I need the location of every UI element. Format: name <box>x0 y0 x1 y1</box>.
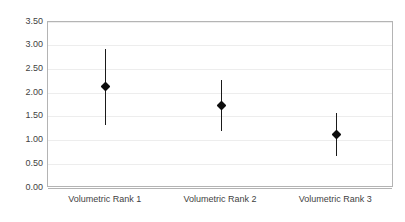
x-axis-tick-label: Volumetric Rank 1 <box>68 194 141 205</box>
data-point-marker <box>216 101 226 111</box>
y-axis-tick-label: 0.00 <box>3 183 43 192</box>
y-axis-tick-label: 3.50 <box>3 17 43 26</box>
x-axis: Volumetric Rank 1Volumetric Rank 2Volume… <box>47 194 393 214</box>
data-point-marker <box>101 82 111 92</box>
data-point-marker <box>331 129 341 139</box>
gridline <box>48 164 392 165</box>
y-axis-tick-label: 2.50 <box>3 64 43 73</box>
x-axis-tick-label: Volumetric Rank 2 <box>183 194 256 205</box>
y-axis-tick-label: 3.00 <box>3 40 43 49</box>
y-axis-tick-label: 1.50 <box>3 111 43 120</box>
gridline <box>48 188 392 189</box>
gridline <box>48 140 392 141</box>
y-axis-tick-label: 2.00 <box>3 88 43 97</box>
y-axis: 3.503.002.502.001.501.000.500.00 <box>0 21 43 187</box>
gridline <box>48 22 392 23</box>
y-axis-tick-label: 0.50 <box>3 159 43 168</box>
gridline <box>48 45 392 46</box>
error-bar-chart: 3.503.002.502.001.501.000.500.00 Volumet… <box>0 0 405 222</box>
plot-area <box>47 21 393 187</box>
x-axis-tick-label: Volumetric Rank 3 <box>299 194 372 205</box>
y-axis-tick-label: 1.00 <box>3 135 43 144</box>
gridline <box>48 69 392 70</box>
